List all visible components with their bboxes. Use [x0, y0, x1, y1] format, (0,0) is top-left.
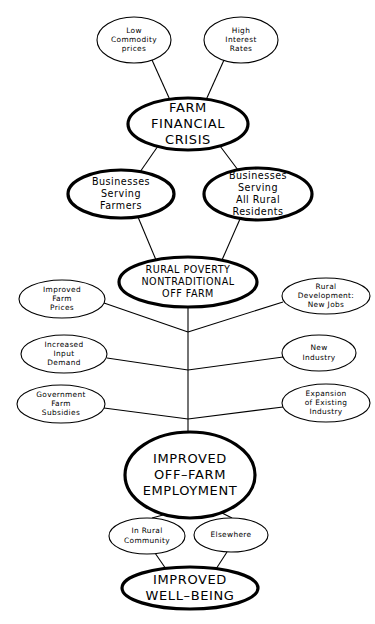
label-line: Low — [126, 26, 142, 35]
label-line: Rates — [230, 44, 253, 53]
label-line: Demand — [47, 358, 80, 367]
node-businesses-serving-all-rural-residents[interactable]: BusinessesServingAll RuralResidents — [204, 168, 312, 220]
edge-low-commodity-to-crisis — [152, 60, 170, 100]
label-expansion-of-existing-industry: Expansionof ExistingIndustry — [305, 389, 348, 416]
node-rural-poverty-nontraditional-off-farm[interactable]: RURAL POVERTYNONTRADITIONALOFF FARM — [119, 257, 257, 307]
label-line: Businesses — [229, 170, 287, 181]
label-line: Businesses — [92, 176, 150, 187]
label-line: OFF FARM — [162, 288, 214, 299]
label-line: Prices — [50, 303, 74, 312]
edge-businesses-rural-to-poverty — [222, 219, 240, 260]
label-line: Government — [36, 390, 86, 399]
label-line: IMPROVED — [153, 451, 227, 466]
flow-diagram-canvas: LowCommoditypricesHighInterestRatesFARMF… — [0, 0, 375, 624]
edge-employment-to-in-rural-community — [152, 515, 163, 518]
label-line: High — [232, 26, 250, 35]
label-improved-well-being: IMPROVEDWELL–BEING — [146, 572, 235, 603]
label-line: New Jobs — [308, 300, 345, 309]
label-line: FARM — [169, 100, 207, 115]
node-new-industry[interactable]: NewIndustry — [282, 335, 356, 371]
label-line: Subsidies — [42, 408, 80, 417]
edge-in-rural-community-to-well-being — [155, 553, 166, 569]
node-low-commodity-prices[interactable]: LowCommodityprices — [97, 17, 171, 63]
nodes-layer: LowCommoditypricesHighInterestRatesFARMF… — [17, 17, 370, 609]
node-improved-well-being[interactable]: IMPROVEDWELL–BEING — [122, 567, 258, 609]
node-high-interest-rates[interactable]: HighInterestRates — [204, 17, 278, 63]
node-businesses-serving-farmers[interactable]: BusinessesServingFarmers — [68, 170, 174, 218]
edge-expansion-industry-to-spine — [188, 407, 283, 419]
label-line: Farm — [52, 294, 72, 303]
label-line: Farmers — [100, 200, 142, 211]
label-line: New — [310, 343, 327, 352]
node-improved-off-farm-employment[interactable]: IMPROVEDOFF–FARMEMPLOYMENT — [125, 432, 255, 518]
label-line: Industry — [309, 407, 342, 416]
edge-businesses-farmers-to-poverty — [138, 217, 156, 260]
node-rural-development-new-jobs[interactable]: RuralDevelopment:New Jobs — [282, 278, 370, 314]
label-line: Elsewhere — [211, 530, 252, 539]
edge-increased-input-demand-to-spine — [107, 358, 188, 370]
label-businesses-serving-all-rural-residents: BusinessesServingAll RuralResidents — [229, 170, 287, 217]
label-line: Expansion — [305, 389, 346, 398]
label-line: Serving — [101, 188, 141, 199]
label-line: Residents — [232, 206, 283, 217]
label-line: Improved — [43, 285, 81, 294]
node-government-farm-subsidies[interactable]: GovernmentFarmSubsidies — [17, 385, 105, 423]
label-line: Industry — [302, 353, 335, 362]
label-line: All Rural — [236, 194, 280, 205]
label-improved-off-farm-employment: IMPROVEDOFF–FARMEMPLOYMENT — [143, 451, 238, 498]
label-line: NONTRADITIONAL — [141, 276, 234, 287]
node-expansion-of-existing-industry[interactable]: Expansionof ExistingIndustry — [282, 384, 370, 422]
label-line: EMPLOYMENT — [143, 483, 238, 498]
node-increased-input-demand[interactable]: IncreasedInputDemand — [21, 335, 107, 373]
label-line: Commodity — [111, 35, 157, 44]
label-line: WELL–BEING — [146, 588, 235, 603]
label-line: of Existing — [305, 398, 348, 407]
label-line: Rural — [316, 282, 337, 291]
label-line: OFF–FARM — [154, 467, 226, 482]
edge-employment-to-elsewhere — [222, 513, 232, 518]
label-line: Development: — [298, 291, 354, 300]
edge-crisis-to-businesses-farmers — [140, 146, 158, 172]
node-farm-financial-crisis[interactable]: FARMFINANCIALCRISIS — [128, 98, 248, 150]
label-line: prices — [122, 44, 146, 53]
label-line: RURAL POVERTY — [146, 264, 231, 275]
edge-crisis-to-businesses-rural — [220, 146, 238, 170]
flow-diagram-svg: LowCommoditypricesHighInterestRatesFARMF… — [0, 0, 375, 624]
edge-government-subsidies-to-spine — [104, 408, 188, 419]
label-line: Input — [54, 349, 75, 358]
label-line: IMPROVED — [153, 572, 227, 587]
label-line: FINANCIAL — [151, 116, 225, 131]
label-elsewhere: Elsewhere — [211, 530, 252, 539]
label-line: Increased — [44, 340, 83, 349]
label-line: Farm — [51, 399, 71, 408]
label-line: CRISIS — [165, 132, 211, 147]
label-line: Community — [124, 536, 170, 545]
node-in-rural-community[interactable]: In RuralCommunity — [109, 518, 185, 554]
edge-elsewhere-to-well-being — [216, 552, 227, 569]
edge-new-industry-to-spine — [188, 357, 283, 370]
label-line: In Rural — [131, 526, 162, 535]
node-elsewhere[interactable]: Elsewhere — [194, 518, 268, 552]
node-improved-farm-prices[interactable]: ImprovedFarmPrices — [19, 280, 105, 318]
label-line: Serving — [238, 182, 278, 193]
edge-high-interest-to-crisis — [206, 60, 224, 100]
label-line: Interest — [225, 35, 256, 44]
